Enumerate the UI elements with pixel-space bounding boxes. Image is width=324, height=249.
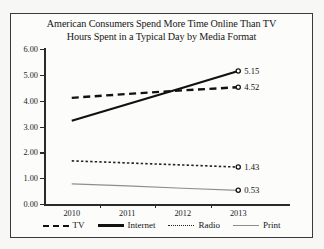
- series-lines: [44, 49, 266, 204]
- legend-swatch-icon: [43, 225, 69, 227]
- legend-item-tv[interactable]: TV: [43, 221, 85, 230]
- chart-legend: TVInternetRadioPrint: [11, 221, 312, 230]
- value-label-print: 0.53: [244, 185, 259, 195]
- chart-title: American Consumers Spend More Time Onlin…: [11, 18, 312, 43]
- y-tick-label: 2.00: [23, 148, 38, 157]
- x-tick-label: 2011: [119, 209, 135, 218]
- y-tick-label: 3.00: [23, 122, 38, 131]
- endpoint-marker-print: [236, 188, 240, 192]
- endpoint-marker-tv: [236, 85, 240, 89]
- x-tick-mark: [100, 204, 101, 208]
- chart-title-line2: Hours Spent in a Typical Day by Media Fo…: [11, 31, 312, 44]
- legend-swatch-icon: [98, 224, 124, 227]
- y-tick-label: 4.00: [23, 96, 38, 105]
- series-line-radio: [72, 161, 239, 167]
- legend-item-print[interactable]: Print: [233, 221, 281, 230]
- legend-label: Radio: [198, 221, 220, 230]
- legend-item-internet[interactable]: Internet: [98, 221, 156, 230]
- legend-label: Internet: [128, 221, 156, 230]
- chart-title-line1: American Consumers Spend More Time Onlin…: [11, 18, 312, 31]
- value-label-internet: 5.15: [244, 66, 259, 76]
- value-label-tv: 4.52: [244, 82, 259, 92]
- plot-area: 0.001.002.003.004.005.006.00 20102011201…: [44, 49, 266, 204]
- y-tick-label: 5.00: [23, 70, 38, 79]
- legend-swatch-icon: [168, 225, 194, 226]
- chart-container: American Consumers Spend More Time Onlin…: [10, 13, 313, 238]
- endpoint-marker-radio: [236, 165, 240, 169]
- legend-label: TV: [73, 221, 85, 230]
- y-tick-label: 1.00: [23, 174, 38, 183]
- x-tick-label: 2012: [174, 209, 191, 218]
- legend-swatch-icon: [233, 225, 259, 226]
- y-tick-label: 6.00: [23, 45, 38, 54]
- x-tick-label: 2013: [230, 209, 247, 218]
- x-tick-mark: [211, 204, 212, 208]
- x-axis-line: [44, 204, 290, 206]
- legend-label: Print: [263, 221, 281, 230]
- x-tick-mark: [155, 204, 156, 208]
- value-label-radio: 1.43: [244, 162, 259, 172]
- endpoint-marker-internet: [236, 69, 240, 73]
- x-tick-label: 2010: [63, 209, 80, 218]
- y-tick-mark: [40, 204, 44, 205]
- legend-item-radio[interactable]: Radio: [168, 221, 220, 230]
- series-line-print: [72, 184, 239, 190]
- y-tick-label: 0.00: [23, 200, 38, 209]
